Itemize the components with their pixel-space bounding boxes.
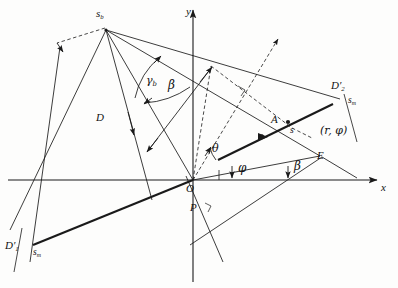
- dot-A: [286, 120, 290, 124]
- arc-beta-upper: [144, 87, 190, 103]
- dashed-leg-beyond-s: [292, 128, 312, 138]
- label-y-axis: y: [186, 6, 191, 17]
- measure-bar-arrow-up: [200, 67, 212, 82]
- label-point-A: A: [271, 114, 278, 125]
- right-angle-marker-P: [205, 203, 211, 212]
- label-D2-prime: D′2: [331, 80, 345, 93]
- D-arrow: [128, 112, 134, 135]
- label-distance-D: D: [96, 112, 104, 123]
- label-point-E: E: [317, 150, 324, 161]
- label-phi: φ: [238, 162, 246, 174]
- dashed-leg-to-s: [211, 66, 292, 128]
- diagram-canvas: [0, 0, 398, 288]
- label-polar-coords: (r, φ): [320, 125, 347, 136]
- point-dots-group: [104, 28, 290, 137]
- right-angle-marker-upper: [238, 86, 245, 96]
- label-gamma-b: γb: [146, 75, 157, 88]
- line-sb-to-E: [106, 30, 320, 156]
- source-rays-group: [10, 28, 340, 262]
- line-sb-to-D1prime-outer: [30, 47, 60, 262]
- line-sb-to-origin: [106, 30, 193, 180]
- label-point-P: P: [190, 202, 197, 213]
- label-point-s: s: [290, 126, 294, 136]
- label-beta-lower: β: [294, 160, 301, 172]
- label-sm-right: sm: [348, 96, 356, 107]
- line-E-down-right: [322, 157, 357, 178]
- line-sb-to-D2prime: [106, 30, 340, 99]
- label-x-axis: x: [381, 182, 386, 193]
- axes-group: [8, 10, 377, 282]
- label-theta: θ: [212, 143, 219, 154]
- E-lines-group: [186, 156, 357, 262]
- dashed-normal-ray: [193, 39, 278, 180]
- figure-container: sb y x O D γb β θ φ β A s E P (r, φ) D′2…: [0, 0, 398, 288]
- measure-bar-arrow-down: [147, 138, 158, 152]
- dashed-ray-upleft: [57, 28, 105, 43]
- label-sm-left: sm: [33, 248, 41, 259]
- label-origin-O: O: [186, 183, 194, 194]
- dot-sb: [104, 28, 107, 31]
- label-source-sb: sb: [96, 8, 104, 21]
- thick-line-left-segment: [33, 180, 193, 245]
- dot-mid: [260, 134, 263, 137]
- label-D1-prime: D′1: [5, 240, 19, 253]
- label-beta-upper: β: [168, 79, 175, 91]
